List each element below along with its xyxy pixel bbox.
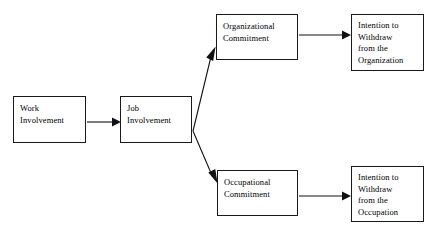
edge-work-to-job xyxy=(87,118,121,127)
node-occupational-commitment: Occupational Commitment xyxy=(217,170,298,216)
diagram-canvas: Work Involvement Job Involvement Organiz… xyxy=(0,0,434,234)
node-job-involvement: Job Involvement xyxy=(120,96,192,143)
edge-organizational-to-intention xyxy=(299,31,351,40)
node-intention-withdraw-occupation: Intention to Withdraw from the Occupatio… xyxy=(351,166,424,222)
edge-occupational-to-intention xyxy=(299,192,351,201)
node-intention-withdraw-organization: Intention to Withdraw from the Organizat… xyxy=(351,14,424,71)
edge-job-to-occupational xyxy=(193,131,218,183)
edge-job-to-organizational xyxy=(193,47,216,131)
node-work-involvement: Work Involvement xyxy=(13,96,86,143)
node-organizational-commitment: Organizational Commitment xyxy=(216,14,298,60)
